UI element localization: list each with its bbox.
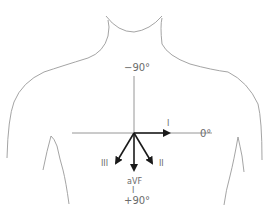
label-lead-iii: III <box>101 159 108 168</box>
lead-iii-vector <box>116 133 134 163</box>
avf-tick: I <box>132 186 134 195</box>
lead-ii-vector <box>134 133 152 163</box>
hexaxial-diagram: −90° 0° +90° I II III aVF I <box>0 0 273 217</box>
label-minus-90: −90° <box>124 62 150 73</box>
label-plus-90: +90° <box>124 195 150 206</box>
neck-outline <box>106 16 162 32</box>
label-lead-i: I <box>167 119 169 128</box>
left-armpit-outline <box>43 136 69 204</box>
reference-axes <box>72 76 212 133</box>
right-armpit-outline <box>224 137 244 205</box>
label-0: 0° <box>200 128 211 139</box>
right-shoulder-outline <box>161 18 262 160</box>
left-shoulder-outline <box>7 20 109 158</box>
label-lead-avf: aVF <box>127 177 142 186</box>
label-lead-ii: II <box>159 159 164 168</box>
